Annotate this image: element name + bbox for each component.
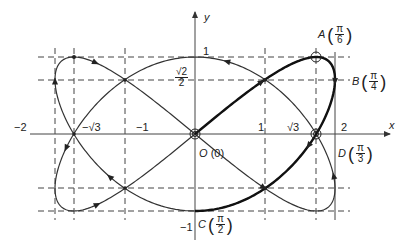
point-C-label: C (π2) [198, 214, 233, 235]
point-O-label: O (0) [199, 148, 224, 159]
point-D-label: D (π3) [338, 143, 373, 164]
x-tick-sqrt3: √3 [287, 122, 299, 133]
x-tick-1: 1 [258, 122, 264, 133]
y-tick-1: 1 [203, 46, 209, 57]
point-B-label: B (π4) [352, 71, 386, 92]
direction-arrow-icon [330, 172, 337, 180]
direction-arrow-icon [62, 144, 70, 153]
x-axis-label: x [389, 120, 395, 131]
point-A-label: A (π6) [318, 24, 352, 45]
point-markers [190, 52, 321, 139]
x-tick-neg1: −1 [136, 122, 149, 133]
x-tick-neg-sqrt3: −√3 [82, 122, 101, 133]
y-tick-sqrt2-over-2: √22 [175, 67, 188, 88]
direction-arrow-icon [93, 200, 102, 208]
lissajous-figure: y x −2 −√3 −1 1 √3 2 1 √22 −1 A (π6) B (… [0, 0, 404, 244]
direction-arrow-icon [91, 59, 100, 67]
direction-arrow-icon [332, 78, 338, 85]
y-axis-label: y [204, 12, 210, 23]
x-tick-neg2: −2 [14, 122, 27, 133]
y-tick-neg1: −1 [180, 222, 193, 233]
direction-arrow-icon [223, 58, 231, 66]
direction-arrow-icon [52, 78, 58, 85]
x-tick-2: 2 [341, 122, 347, 133]
